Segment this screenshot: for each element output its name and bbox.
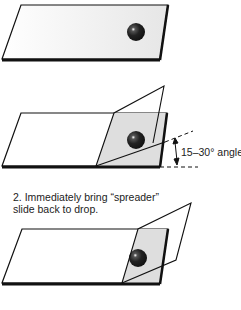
slide-1 — [2, 5, 168, 60]
slide-2 — [2, 86, 198, 167]
blood-drop-icon — [127, 23, 145, 41]
angle-arrow-icon — [173, 138, 179, 165]
angle-label: 15–30° angle — [181, 146, 241, 158]
slide-3 — [2, 203, 191, 284]
step-2-line-1: 2. Immediately bring “spreader” — [13, 191, 159, 203]
step-2-caption: 2. Immediately bring “spreader” slide ba… — [13, 191, 159, 215]
step-2-line-2: slide back to drop. — [13, 203, 159, 215]
blood-drop-icon — [127, 131, 145, 149]
